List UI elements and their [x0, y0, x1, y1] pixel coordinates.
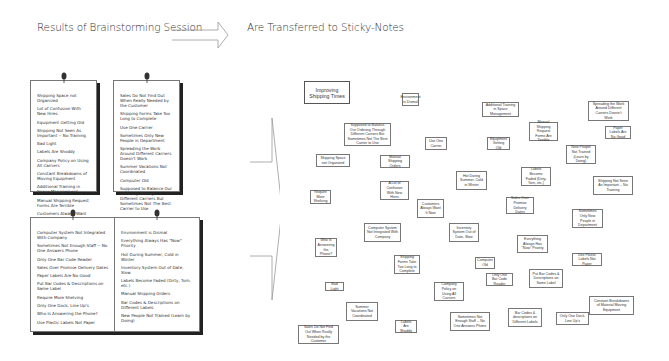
pushpin-icon [61, 72, 67, 83]
idea-item: Manual Shipping Request Forms Are Terrib… [37, 198, 90, 208]
sticky-note: Manual Shipping Orders [380, 155, 410, 168]
idea-item: Use One Carrier [120, 125, 173, 130]
idea-item: Computer System Not Integrated With Comp… [37, 230, 109, 240]
idea-item: Use Plastic Labels Not Paper [37, 320, 109, 325]
idea-item: New People Not Trained (Learn by Doing) [121, 313, 193, 323]
sticky-note: Spreading the Work Around Different Carr… [588, 101, 629, 121]
sticky-note: Constant Breakdowns of Material Moving E… [589, 296, 634, 315]
sticky-note: Sales Do Not Find Out When Really Needed… [298, 325, 339, 344]
sticky-note: A Lot of Confusion With New Hires [380, 181, 409, 200]
sticky-note: Supposed to Balance Our Ordering Through… [344, 123, 391, 146]
idea-item: Everything Always Has "Now" Priority [121, 238, 193, 248]
pushpin-icon [144, 72, 150, 83]
sticky-note: Environment is Dismal [402, 93, 419, 106]
idea-item: Supposed to Balance Our Ordering Through… [120, 186, 173, 211]
idea-item: Labels Are Shoddy [37, 149, 90, 154]
idea-item: Constant Breakdowns of Moving Equipment [37, 171, 90, 181]
sticky-note: Summer Vacations Not Coordinated [346, 302, 378, 321]
sticky-note: Sometimes Not Enough Staff -- No One Ans… [450, 312, 490, 331]
sticky-note: Paper Labels Are No Good [605, 126, 631, 139]
sticky-note: Customers Always Want It Now [417, 199, 444, 218]
sticky-note: Labels Are Shoddy [395, 320, 417, 333]
sticky-note: Company Policy on Using All Carriers [434, 282, 464, 301]
idea-item: Hot During Summer, Cold in Winter [121, 252, 193, 262]
idea-item: Sometimes Not Enough Staff -- No One Ans… [37, 243, 109, 253]
idea-item: Sometimes Only New People in Department [120, 133, 173, 143]
sticky-note: Use One Carrier [425, 137, 447, 150]
idea-item: Only One Bar Code Reader [37, 257, 109, 262]
sticky-note: Require More Shelving [310, 190, 331, 204]
heading-sticky-notes: Are Transferred to Sticky-Notes [247, 21, 404, 33]
sticky-note: Only One Dock, Line Up's [556, 312, 589, 325]
sticky-note-title: Improving Shipping Times [304, 81, 350, 104]
sticky-note: Sometimes Only New People in Department [572, 209, 603, 228]
brainstorm-page-2: Sales Do Not Find Out When Really Needed… [113, 80, 180, 192]
sticky-note: Inventory System Out of Date, Slow [449, 223, 479, 242]
sticky-note: Shipping Not Seen As Important -- No Tra… [593, 176, 633, 195]
idea-item: Bar Codes & Descriptions on Different La… [121, 300, 193, 310]
brainstorm-page-4: Environment is Dismal Everything Always … [114, 217, 200, 332]
idea-item: Sales Do Not Find Out When Really Needed… [120, 93, 173, 108]
sticky-note: Shipping Forms Take Too Long to Complete [394, 255, 420, 274]
idea-item: Spreading the Work Around Different Carr… [120, 146, 173, 161]
sticky-note: Use Plastic Labels Not Paper [572, 253, 602, 266]
sticky-note: Computer Old [475, 257, 495, 269]
idea-list: Computer System Not Integrated With Comp… [31, 218, 115, 334]
sticky-note: Equipment Getting Old [487, 137, 510, 150]
pushpin-icon [70, 209, 76, 220]
large-right-arrow-icon [250, 118, 280, 300]
sticky-note: Labels Become Faded (Dirty, Torn, etc.) [521, 167, 551, 186]
sticky-note: Who Is Answering the Phone? [315, 238, 337, 257]
idea-item: Computer Old [120, 178, 173, 183]
idea-item: Bad Light [37, 141, 90, 146]
sticky-note: Only One Bar Code Reader [486, 273, 513, 286]
idea-item: Require More Shelving [37, 295, 109, 300]
sticky-note: Put Bar Codes & Descriptions on Same Lab… [529, 269, 563, 288]
sticky-note: Hot During Summer, Cold in Winter [456, 171, 487, 190]
idea-item: Equipment Getting Old [37, 120, 90, 125]
idea-list: Sales Do Not Find Out When Really Needed… [114, 81, 179, 220]
idea-item: Shipping Space not Organized [37, 93, 90, 103]
idea-list: Shipping Space not Organized Lot of Conf… [31, 81, 96, 230]
sticky-note: Bad Light [325, 282, 344, 291]
idea-item: Sales Over Promise Delivery Dates [37, 265, 109, 270]
sticky-note: Shipping Space not Organized [316, 154, 350, 167]
idea-item: Shipping Not Seen As Important -- No Tra… [37, 128, 90, 138]
sticky-note: Computer System Not Integrated With Comp… [364, 223, 401, 242]
idea-item: Company Policy on Using All Carriers [37, 158, 90, 168]
idea-item: Paper Labels Are No Good [37, 273, 109, 278]
idea-item: Summer Vacations Not Coordinated [120, 164, 173, 174]
right-arrow-icon [170, 20, 230, 50]
idea-item: Only One Dock, Line Up's [37, 303, 109, 308]
sticky-note: Sales Over Promise Delivery Dates [506, 197, 534, 214]
idea-list: Environment is Dismal Everything Always … [115, 218, 199, 332]
sticky-note: Manual Shipping Request Forms Are Terrib… [529, 122, 558, 141]
idea-item: Manual Shipping Orders [121, 291, 193, 296]
brainstorm-page-3: Computer System Not Integrated With Comp… [30, 217, 116, 332]
sticky-note: Everything Always Has "Now" Priority [517, 235, 548, 253]
idea-item: Inventory System Out of Date, Slow [121, 265, 193, 275]
brainstorm-page-1: Shipping Space not Organized Lot of Conf… [30, 80, 97, 192]
idea-item: Additional Training in Space Management [37, 184, 90, 194]
idea-item: Lot of Confusion With New Hires [37, 106, 90, 116]
idea-item: Put Bar Codes & Descriptions on Same Lab… [37, 281, 109, 291]
idea-item: Labels Become Faded (Dirty, Torn, etc.) [121, 278, 193, 288]
idea-item: Shipping Forms Take Too Long to Complete [120, 111, 173, 121]
idea-item: Environment is Dismal [121, 230, 193, 235]
idea-item: Who Is Answering the Phone? [37, 311, 109, 316]
sticky-note: Additional Training in Space Management [482, 102, 519, 117]
pushpin-icon [154, 209, 160, 220]
sticky-note: Bar Codes & descriptions on Different La… [508, 308, 542, 327]
sticky-note: New People Not Trained (Learn by Doing) [566, 145, 596, 164]
